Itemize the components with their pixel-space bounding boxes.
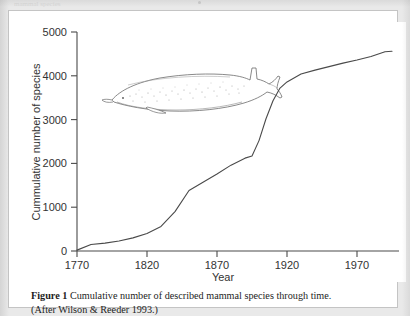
y-tick-label: 0	[61, 245, 67, 257]
y-tick-label: 5000	[43, 26, 67, 38]
y-tick-label: 3000	[43, 114, 67, 126]
beaked-whale-icon	[102, 68, 282, 113]
figure-label: Figure 1	[31, 290, 67, 301]
x-tick-label: 1920	[275, 259, 299, 271]
x-tick-labels: 1770 1820 1870 1920 1970	[65, 259, 369, 271]
line-chart: 0 1000 2000 3000 4000 5000 1770 1820 187…	[18, 22, 406, 282]
page-bleed-text: mammal species	[14, 0, 344, 8]
y-tick-label: 2000	[43, 157, 67, 169]
x-axis-ticks	[77, 251, 357, 257]
page-bleed-mark	[198, 1, 201, 4]
caption-line-2: (After Wilson & Reeder 1993.)	[31, 303, 395, 316]
y-axis-ticks	[71, 32, 77, 251]
caption-line-1: Cumulative number of described mammal sp…	[70, 290, 331, 301]
x-tick-label: 1970	[345, 259, 369, 271]
x-axis-title: Year	[212, 271, 235, 282]
y-tick-label: 4000	[43, 70, 67, 82]
x-tick-label: 1770	[65, 259, 89, 271]
figure-caption: Figure 1 Cumulative number of described …	[31, 289, 395, 316]
y-tick-labels: 0 1000 2000 3000 4000 5000	[43, 26, 67, 257]
chart-plot-box: 0 1000 2000 3000 4000 5000 1770 1820 187…	[18, 22, 406, 282]
y-tick-label: 1000	[43, 201, 67, 213]
x-tick-label: 1820	[135, 259, 159, 271]
x-tick-label: 1870	[205, 259, 229, 271]
figure-panel: 0 1000 2000 3000 4000 5000 1770 1820 187…	[8, 10, 398, 308]
y-axis-title: Cummulative number of species	[30, 63, 42, 221]
scanned-page: mammal species	[0, 0, 410, 316]
